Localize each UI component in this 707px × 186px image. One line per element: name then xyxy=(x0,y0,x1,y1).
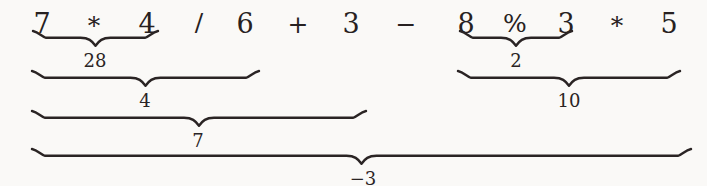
expression-evaluation-figure: 7*4/6+3−8%3*5 2847210−3 xyxy=(0,0,707,186)
brace-result-6: −3 xyxy=(350,170,377,186)
underbrace-2 xyxy=(32,71,259,86)
expression-token-number-2: 4 xyxy=(138,10,155,37)
brace-result-4: 2 xyxy=(510,52,521,70)
brace-result-5: 10 xyxy=(558,92,581,110)
expression-token-number-10: 3 xyxy=(557,10,574,37)
expression-token-operator-3: / xyxy=(195,10,203,35)
expression-token-operator-5: + xyxy=(288,12,309,37)
brace-result-3: 7 xyxy=(192,132,203,150)
expression-token-number-6: 3 xyxy=(342,10,359,37)
brace-result-2: 4 xyxy=(139,92,150,110)
expression-token-number-8: 8 xyxy=(457,10,474,37)
expression-token-number-0: 7 xyxy=(33,10,50,37)
expression-token-operator-9: % xyxy=(503,11,527,36)
expression-token-operator-1: * xyxy=(88,13,101,38)
brace-result-1: 28 xyxy=(84,52,107,70)
underbrace-6 xyxy=(32,149,691,164)
expression-token-number-12: 5 xyxy=(660,10,677,37)
expression-token-operator-11: * xyxy=(611,13,624,38)
underbrace-5 xyxy=(458,71,680,86)
expression-token-operator-7: − xyxy=(396,12,417,37)
underbrace-3 xyxy=(32,111,366,126)
expression-token-number-4: 6 xyxy=(236,10,253,37)
